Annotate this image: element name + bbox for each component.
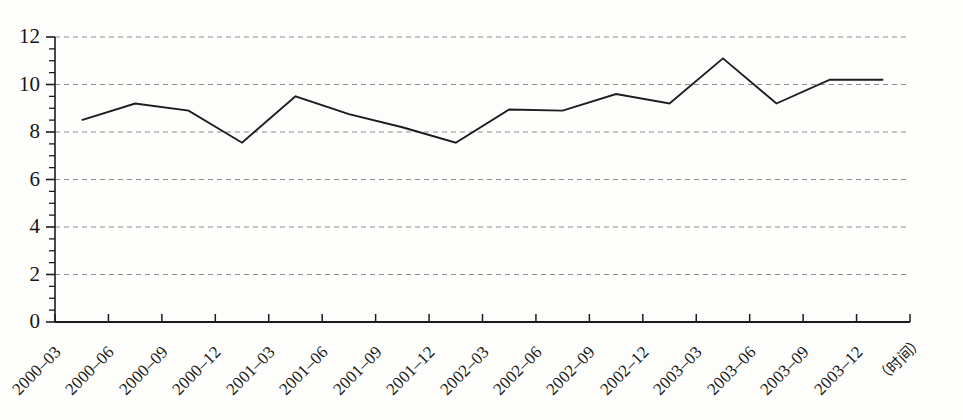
y-tick-label: 6 [6,169,40,190]
line-chart-figure: 024681012 2000–032000–062000–092000–1220… [0,0,963,420]
y-tick-label: 8 [6,121,40,142]
y-tick-label: 2 [6,264,40,285]
y-tick-label: 4 [6,216,40,237]
data-series-line [82,58,884,142]
y-tick-label: 10 [6,74,40,95]
x-tick-group [55,314,910,322]
y-tick-label: 0 [6,311,40,332]
gridline-group [55,37,910,275]
y-major-tick-group [46,37,55,322]
y-tick-label: 12 [6,26,40,47]
